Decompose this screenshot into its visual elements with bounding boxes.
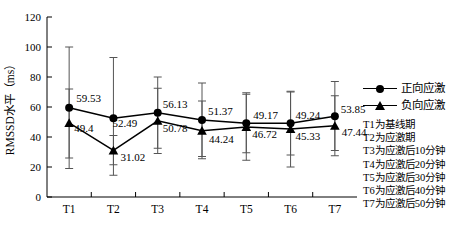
chart-legend: 正向应激 负向应激: [363, 80, 445, 114]
y-tick-label: 120: [25, 11, 42, 23]
data-label: 31.02: [120, 151, 145, 163]
legend-label-positive: 正向应激: [401, 80, 445, 97]
data-label: 59.53: [76, 92, 101, 104]
data-label: 46.72: [252, 128, 277, 140]
x-tick-label: T6: [284, 203, 297, 215]
x-tick-label: T2: [107, 203, 120, 215]
y-tick-label: 80: [30, 71, 42, 83]
data-point-triangle: [64, 118, 74, 127]
circle-marker-icon: [363, 83, 397, 95]
x-tick-label: T3: [151, 203, 164, 215]
annotation-line: T4为应激后20分钟: [363, 158, 445, 171]
data-label: 56.13: [163, 98, 188, 110]
legend-item-negative: 负向应激: [363, 97, 445, 114]
x-tick-label: T1: [63, 203, 76, 215]
data-label: 51.37: [208, 105, 233, 117]
data-point-circle: [65, 104, 73, 112]
legend-label-negative: 负向应激: [401, 97, 445, 114]
data-point-triangle: [109, 146, 119, 155]
annotation-line: T2为应激期: [363, 131, 445, 144]
triangle-marker-icon: [363, 100, 397, 112]
data-point-triangle: [153, 116, 163, 125]
annotation-line: T5为应激后30分钟: [363, 171, 445, 184]
data-point-circle: [331, 112, 339, 120]
x-tick-label: T7: [328, 203, 341, 215]
data-label: 49.17: [253, 109, 278, 121]
annotation-line: T1为基线期: [363, 118, 445, 131]
data-point-circle: [154, 109, 162, 117]
chart-annotations: T1为基线期 T2为应激期 T3为应激后10分钟 T4为应激后20分钟 T5为应…: [363, 118, 445, 210]
annotation-line: T7为应激后50分钟: [363, 197, 445, 210]
annotation-line: T3为应激后10分钟: [363, 144, 445, 157]
x-tick-label: T4: [196, 203, 209, 215]
y-tick-label: 100: [25, 41, 42, 53]
chart-figure: 020406080100120RMSSD水平（ms）T1T2T3T4T5T6T7…: [0, 0, 471, 236]
data-label: 52.49: [112, 117, 137, 129]
y-tick-label: 60: [30, 101, 42, 113]
y-axis-title: RMSSD水平（ms）: [4, 59, 16, 155]
data-label: 45.33: [296, 130, 321, 142]
data-point-circle: [198, 116, 206, 124]
y-tick-label: 40: [30, 131, 42, 143]
y-tick-label: 0: [36, 191, 42, 203]
y-tick-label: 20: [30, 161, 42, 173]
data-label: 49.4: [74, 122, 94, 134]
data-label: 44.24: [209, 133, 234, 145]
annotation-line: T6为应激后40分钟: [363, 184, 445, 197]
data-label: 49.24: [296, 109, 321, 121]
data-label: 50.78: [163, 122, 188, 134]
x-tick-label: T5: [240, 203, 253, 215]
legend-item-positive: 正向应激: [363, 80, 445, 97]
